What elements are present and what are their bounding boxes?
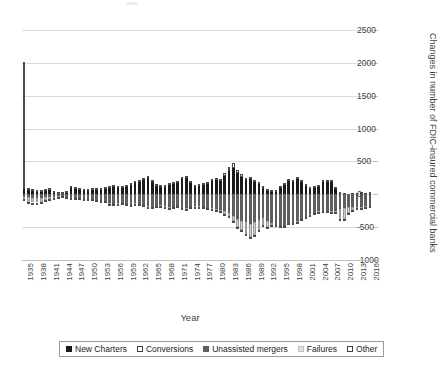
chart-container: 25002000150010005000-500-1000 1935193819… — [0, 0, 442, 373]
bar-segment — [151, 182, 154, 194]
bar-segment — [283, 226, 286, 228]
bar-segment — [236, 219, 239, 227]
bar-segment — [134, 194, 137, 203]
bar-group — [70, 30, 73, 260]
bar-segment — [74, 198, 77, 200]
x-tick-label: 1971 — [181, 263, 189, 281]
bar-group — [83, 30, 86, 260]
y-tick-label: -500 — [357, 223, 374, 232]
bar-segment — [215, 194, 218, 209]
bar-segment — [326, 211, 329, 213]
bar-segment — [326, 180, 329, 182]
x-tick-label: 1977 — [206, 263, 214, 281]
bar-segment — [279, 187, 282, 194]
bar-segment — [147, 194, 150, 206]
bar-group — [339, 30, 342, 260]
bar-group — [317, 30, 320, 260]
bar-segment — [279, 194, 282, 226]
bar-segment — [219, 211, 222, 213]
bar-segment — [104, 187, 107, 189]
x-tick-label: 2010 — [347, 263, 355, 281]
bar-segment — [296, 179, 299, 194]
bar-group — [219, 30, 222, 260]
bar-segment — [253, 194, 256, 222]
bar-segment — [326, 194, 329, 211]
bar-group — [313, 30, 316, 260]
bar-segment — [258, 183, 261, 194]
bar-segment — [134, 204, 137, 206]
bar-group — [57, 30, 60, 260]
bar-segment — [351, 194, 354, 207]
bar-group — [112, 30, 115, 260]
x-tick-label: 2016 — [373, 263, 381, 281]
chart-legend: New ChartersConversionsUnassisted merger… — [59, 341, 384, 357]
bar-segment — [206, 184, 209, 195]
bar-segment — [300, 182, 303, 194]
bar-segment — [266, 189, 269, 191]
bar-segment — [313, 194, 316, 212]
bar-segment — [108, 187, 111, 194]
legend-item[interactable]: Failures — [298, 344, 337, 354]
bar-segment — [279, 186, 282, 188]
bar-segment — [347, 194, 350, 207]
bar-segment — [112, 185, 115, 187]
bar-segment — [172, 184, 175, 195]
bar-group — [151, 30, 154, 260]
bar-group — [296, 30, 299, 260]
bar-group — [142, 30, 145, 260]
bar-group — [168, 30, 171, 260]
bar-group — [351, 30, 354, 260]
bar-segment — [194, 194, 197, 206]
bar-segment — [159, 206, 162, 208]
bar-segment — [151, 207, 154, 209]
bar-segment — [249, 194, 252, 224]
bar-segment — [202, 183, 205, 185]
bar-segment — [95, 188, 98, 190]
legend-item[interactable]: Conversions — [137, 344, 193, 354]
bar-segment — [189, 181, 192, 183]
legend-item[interactable]: New Charters — [66, 344, 127, 354]
bar-segment — [121, 194, 124, 203]
bar-segment — [164, 185, 167, 187]
bar-segment — [232, 221, 235, 223]
bar-segment — [125, 185, 128, 187]
bar-segment — [185, 194, 188, 208]
bar-segment — [330, 182, 333, 194]
bar-segment — [266, 227, 269, 229]
bar-group — [95, 30, 98, 260]
bar-segment — [176, 206, 179, 208]
bar-group — [40, 30, 43, 260]
bar-group — [236, 30, 239, 260]
bar-segment — [155, 184, 158, 186]
bar-segment — [228, 216, 231, 218]
bar-group — [343, 30, 346, 260]
bar-segment — [70, 198, 73, 200]
y-tick-label: 0 — [357, 190, 362, 199]
bar-group — [155, 30, 158, 260]
bar-segment — [185, 178, 188, 194]
bar-segment — [83, 199, 86, 201]
bar-group — [31, 30, 34, 260]
bar-group — [300, 30, 303, 260]
tick-mark — [373, 161, 378, 162]
bar-group — [270, 30, 273, 260]
bar-segment — [322, 211, 325, 213]
bar-segment — [138, 181, 141, 194]
legend-item[interactable]: Unassisted mergers — [203, 344, 288, 354]
bar-segment — [347, 213, 350, 215]
bar-segment — [202, 184, 205, 194]
bar-segment — [317, 186, 320, 194]
bar-group — [61, 30, 64, 260]
bar-segment — [305, 186, 308, 195]
bar-segment — [36, 190, 39, 192]
bar-segment — [253, 222, 256, 236]
bar-segment — [309, 187, 312, 189]
bar-group — [121, 30, 124, 260]
bar-segment — [61, 196, 64, 198]
bar-segment — [270, 225, 273, 227]
legend-item[interactable]: Other — [347, 344, 377, 354]
legend-label: Other — [356, 344, 377, 354]
bar-group — [347, 30, 350, 260]
bar-group — [232, 30, 235, 260]
bar-group — [78, 30, 81, 260]
